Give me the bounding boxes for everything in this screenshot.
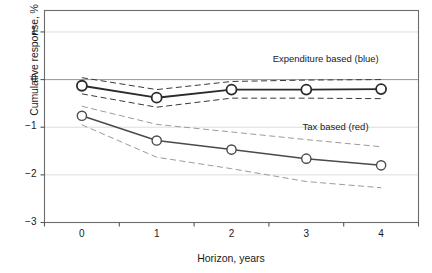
series-0-marker-4 bbox=[376, 84, 386, 94]
x-tick-label-4: 4 bbox=[361, 228, 401, 239]
x-tick-label-2: 2 bbox=[212, 228, 252, 239]
chart-figure: Cumulative response, % Horizon, years 10… bbox=[0, 0, 432, 273]
series-1-marker-2 bbox=[227, 145, 236, 154]
y-tick-label-2: −1 bbox=[9, 120, 37, 131]
y-tick-label-1: 0 bbox=[9, 73, 37, 84]
y-tick-label-0: 1 bbox=[9, 25, 37, 36]
series-1-ci-lower bbox=[82, 125, 381, 188]
series-1-marker-4 bbox=[377, 161, 386, 170]
plot-frame bbox=[45, 11, 419, 223]
y-tick-label-4: −3 bbox=[9, 216, 37, 227]
series-0-marker-3 bbox=[301, 85, 311, 95]
series-1-marker-3 bbox=[302, 154, 311, 163]
annotation-tax-based: Tax based (red) bbox=[303, 121, 369, 132]
x-tick-label-1: 1 bbox=[137, 228, 177, 239]
series-0-marker-2 bbox=[227, 85, 237, 95]
x-tick-label-3: 3 bbox=[286, 228, 326, 239]
series-1-marker-0 bbox=[77, 111, 86, 120]
annotation-expenditure-based: Expenditure based (blue) bbox=[273, 53, 379, 64]
x-axis-title: Horizon, years bbox=[44, 252, 418, 264]
series-0-marker-1 bbox=[152, 93, 162, 103]
series-0-ci-lower bbox=[82, 94, 381, 107]
y-tick-label-3: −2 bbox=[9, 168, 37, 179]
series-1-marker-1 bbox=[152, 136, 161, 145]
series-0-marker-0 bbox=[77, 81, 87, 91]
x-tick-label-0: 0 bbox=[62, 228, 102, 239]
